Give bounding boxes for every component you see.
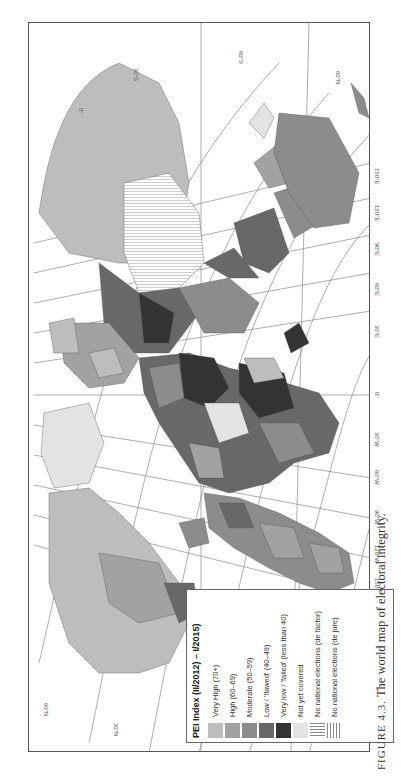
swatch-de-jure [327, 723, 342, 738]
lat-label: 0° [78, 108, 84, 114]
swatch-very-low [276, 723, 291, 738]
lon-label-right: 90°E [374, 243, 380, 256]
lon-label-right: 120°E [374, 205, 380, 221]
swatch-moderate [242, 723, 257, 738]
legend-item-not-covered: Not yet covered [292, 664, 308, 738]
lat-label: 30°N [113, 723, 119, 736]
swatch-not-covered [293, 723, 308, 738]
caption-prefix: FIGURE 4.3. [375, 700, 387, 770]
legend-item-no-elections-de-jure: No national elections (de jure) [326, 617, 342, 738]
caption-text: The world map of electoral integrity. [374, 513, 388, 697]
lat-label: 60°N [335, 71, 341, 84]
lat-label: 60°N [43, 703, 49, 716]
legend-item-very-high: Very High (70+) [207, 665, 223, 738]
legend-item-very-low: Very low / 'failed' (less than 40) [275, 614, 291, 738]
lon-label-right: 150°E [374, 168, 380, 184]
legend-item-low: Low / 'flawed' (40–49) [258, 645, 274, 739]
lon-label-right: 30°W [374, 432, 380, 447]
legend-item-high: High (60–69) [224, 674, 240, 738]
lon-label-right: 30°E [374, 325, 380, 338]
legend-title: PEI Index (II/2012) – I/2015) [191, 623, 201, 738]
lat-label: 60°S [238, 51, 244, 64]
map-legend: PEI Index (II/2012) – I/2015) Very High … [186, 589, 394, 743]
legend-item-moderate: Moderate (50–59) [241, 657, 257, 738]
swatch-de-facto [310, 723, 325, 738]
figure-caption: FIGURE 4.3. The world map of electoral i… [374, 513, 389, 770]
lon-label-right: 60°W [374, 470, 380, 485]
lon-label-right: 0° [374, 392, 380, 398]
legend-item-no-elections-de-facto: No national elections (de factor) [309, 611, 325, 738]
swatch-low [259, 723, 274, 738]
swatch-very-high [208, 723, 223, 738]
swatch-high [225, 723, 240, 738]
lon-label-right: 60°E [374, 283, 380, 296]
lat-label: 30°S [133, 68, 139, 81]
